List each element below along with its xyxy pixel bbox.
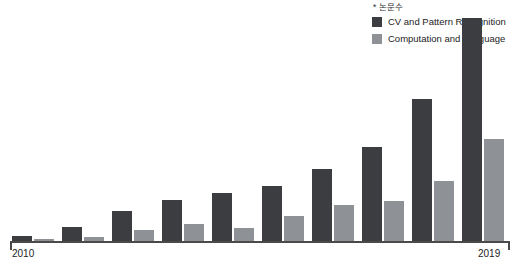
bar-chart: * 논문수 CV and Pattern Recognition Computa… (0, 0, 519, 271)
bar-cv-pattern-recognition (162, 200, 182, 241)
x-tick-label-last: 2019 (478, 248, 500, 259)
bar-computation-and-language (334, 205, 354, 241)
bar-cv-pattern-recognition (362, 147, 382, 241)
bar-group (460, 0, 510, 241)
bar-computation-and-language (134, 230, 154, 241)
x-axis-line (10, 241, 510, 243)
bar-group (260, 0, 310, 241)
x-axis-right-cap (508, 241, 510, 250)
bar-computation-and-language (434, 181, 454, 241)
bar-group (160, 0, 210, 241)
bars-layer (10, 0, 510, 241)
bar-cv-pattern-recognition (62, 227, 82, 241)
bar-cv-pattern-recognition (412, 99, 432, 241)
bar-cv-pattern-recognition (212, 193, 232, 241)
bar-computation-and-language (234, 228, 254, 241)
bar-cv-pattern-recognition (262, 186, 282, 241)
bar-computation-and-language (484, 139, 504, 241)
bar-group (360, 0, 410, 241)
bar-group (310, 0, 360, 241)
bar-group (410, 0, 460, 241)
bar-cv-pattern-recognition (112, 211, 132, 241)
bar-cv-pattern-recognition (312, 169, 332, 241)
bar-group (210, 0, 260, 241)
bar-cv-pattern-recognition (462, 18, 482, 241)
bar-group (110, 0, 160, 241)
plot-area: 2010 2019 (0, 0, 519, 271)
bar-computation-and-language (384, 201, 404, 241)
bar-group (10, 0, 60, 241)
bar-computation-and-language (284, 216, 304, 241)
x-tick-label-first: 2010 (12, 248, 34, 259)
bar-group (60, 0, 110, 241)
bar-computation-and-language (184, 224, 204, 241)
